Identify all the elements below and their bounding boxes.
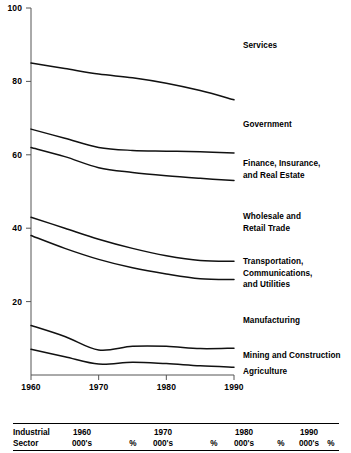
table-thousands-label: 000's [224,440,264,448]
table-year-label: 1970 [143,429,183,437]
series-line [31,325,234,350]
series-label: Finance, Insurance, and Real Estate [243,158,320,181]
table-year-label: 1960 [62,429,102,437]
series-line [31,129,234,153]
y-tick-label: 20 [0,298,22,307]
y-tick-label: 100 [0,4,22,13]
table-percent-label: % [204,440,224,448]
x-tick-label: 1980 [146,383,186,392]
series-label: Agriculture [243,366,287,378]
table-percent-label: % [123,440,143,448]
table-col-industrial-line2: Sector [13,440,38,448]
table-rule-bottom [13,450,339,451]
series-line [31,63,234,100]
series-line [31,349,234,367]
series-label: Services [243,40,277,52]
y-tick-label: 40 [0,224,22,233]
series-label: Transportation, Communications, and Util… [243,256,312,291]
chart-page: 20406080100 1960197019801990 ServicesGov… [0,0,351,453]
x-tick-label: 1970 [79,383,119,392]
chart-canvas [0,0,351,400]
series-label: Mining and Construction [243,350,341,362]
table-rule-top [13,423,339,424]
table-col-industrial-line1: Industrial [13,429,50,437]
table-thousands-label: 000's [62,440,102,448]
table-thousands-label: 000's [143,440,183,448]
table-year-label: 1990 [289,429,329,437]
y-tick-label: 60 [0,151,22,160]
y-tick-label: 80 [0,77,22,86]
series-label: Manufacturing [243,315,300,327]
chart-axes [26,8,234,380]
chart-series-lines [31,63,234,367]
table-percent-label: % [271,440,291,448]
series-line [31,217,234,261]
table-percent-label: % [321,440,341,448]
series-label: Government [243,119,292,131]
series-label: Wholesale and Retail Trade [243,211,301,234]
table-year-label: 1980 [224,429,264,437]
data-table-header: Industrial Sector 1960000's%1970000's%19… [13,420,339,453]
x-tick-label: 1960 [11,383,51,392]
line-chart: 20406080100 1960197019801990 ServicesGov… [0,0,351,400]
series-line [31,236,234,280]
x-tick-label: 1990 [214,383,254,392]
